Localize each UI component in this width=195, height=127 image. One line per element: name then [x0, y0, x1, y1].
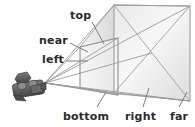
label-bottom: bottom	[63, 111, 109, 122]
label-far: far	[170, 111, 188, 122]
frustum-face-near	[80, 38, 118, 95]
label-top: top	[70, 10, 91, 21]
frustum-diagram: top near left bottom right far	[0, 0, 195, 127]
frustum-faces	[80, 5, 190, 101]
video-camera-icon	[12, 72, 46, 101]
frustum-svg	[0, 0, 195, 127]
leader-bottom	[97, 92, 106, 107]
label-left: left	[42, 54, 64, 65]
label-near: near	[39, 35, 68, 46]
label-right: right	[125, 111, 156, 122]
